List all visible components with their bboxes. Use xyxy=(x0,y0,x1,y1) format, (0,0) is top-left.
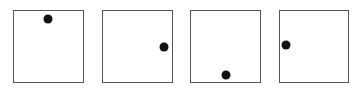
dot-right xyxy=(160,43,169,52)
dot-left xyxy=(282,41,291,50)
dot-bottom xyxy=(222,71,231,80)
dot-top xyxy=(44,15,53,24)
